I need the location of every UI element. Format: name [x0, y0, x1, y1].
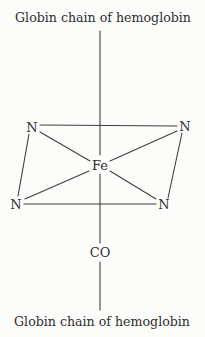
hemoglobin-co-structure-diagram: Globin chain of hemoglobin Globin chain … — [0, 0, 205, 337]
nitrogen-top-left-label: N — [26, 120, 37, 135]
bottom-globin-chain-label: Globin chain of hemoglobin — [14, 314, 190, 329]
bond-ring-top-edge — [40, 125, 177, 126]
carbon-monoxide-label: CO — [90, 245, 111, 260]
bond-n-bottomleft-fe — [25, 171, 89, 199]
bond-n-topleft-fe — [40, 132, 90, 161]
top-globin-chain-label: Globin chain of hemoglobin — [15, 10, 191, 25]
bond-n-topright-fe — [110, 131, 177, 161]
bond-ring-left-edge — [18, 134, 29, 196]
nitrogen-bottom-left-label: N — [10, 197, 21, 212]
bond-ring-right-edge — [168, 133, 182, 198]
iron-atom-label: Fe — [92, 158, 108, 173]
structure-svg: Globin chain of hemoglobin Globin chain … — [0, 0, 205, 337]
nitrogen-top-right-label: N — [179, 119, 190, 134]
bond-n-bottomright-fe — [110, 171, 156, 199]
nitrogen-bottom-right-label: N — [158, 197, 169, 212]
